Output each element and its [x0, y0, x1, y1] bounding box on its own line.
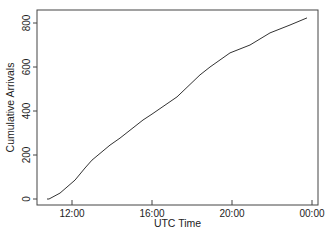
y-tick-label: 200 — [21, 146, 32, 163]
x-axis-label: UTC Time — [154, 217, 201, 229]
data-line — [47, 18, 307, 199]
y-tick-label: 800 — [21, 14, 32, 31]
y-tick-label: 600 — [21, 58, 32, 75]
x-tick-label: 20:00 — [219, 208, 244, 219]
cumulative-arrivals-chart: 12:0016:0020:0000:00 0200400600800 UTC T… — [0, 0, 336, 237]
y-axis-label: Cumulative Arrivals — [4, 63, 16, 153]
y-tick-label: 0 — [21, 196, 32, 202]
y-axis-ticks: 0200400600800 — [21, 14, 37, 202]
y-tick-label: 400 — [21, 102, 32, 119]
x-tick-label: 00:00 — [299, 208, 324, 219]
x-tick-label: 12:00 — [59, 208, 84, 219]
